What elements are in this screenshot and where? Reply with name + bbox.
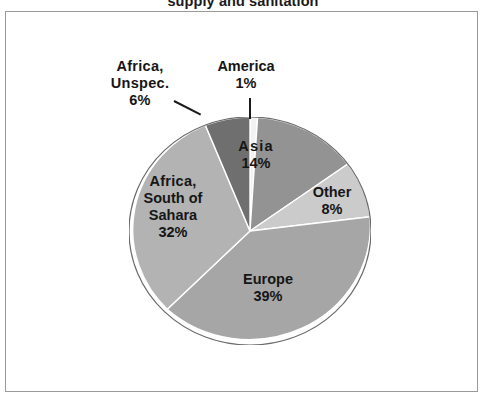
plot-area-frame: Africa, Unspec. 6% America 1% Asia 14% O… [5, 11, 478, 392]
pie-label-sahara-line2: South of [144, 190, 203, 206]
pie-label-other-name: Other [313, 184, 352, 200]
pie-label-sahara-line1: Africa, [149, 173, 196, 189]
pie-label-america-pct: 1% [198, 75, 294, 92]
pie-label-sahara-pct: 32% [118, 224, 228, 241]
pie-label-africa-unspec: Africa, Unspec. 6% [92, 58, 188, 109]
pie-label-asia-name: Asia [238, 138, 273, 154]
pie-label-other: Other 8% [294, 184, 370, 218]
pie-label-africa-south-of-sahara: Africa, South of Sahara 32% [118, 173, 228, 241]
pie-label-america-name: America [217, 58, 274, 74]
pie-label-africa-unspec-pct: 6% [92, 92, 188, 109]
pie-label-america: America 1% [198, 58, 294, 92]
pie-label-africa-unspec-line2: Unspec. [111, 75, 170, 91]
pie-label-asia: Asia 14% [220, 138, 292, 172]
chart-canvas: supply and sanitation [0, 0, 486, 401]
callout-line-america [249, 98, 251, 119]
pie-label-europe: Europe 39% [220, 271, 316, 305]
pie-label-europe-name: Europe [243, 271, 293, 287]
pie-label-sahara-line3: Sahara [149, 207, 197, 223]
pie-label-europe-pct: 39% [220, 288, 316, 305]
pie-label-africa-unspec-line1: Africa, [116, 58, 163, 74]
pie-label-asia-pct: 14% [220, 155, 292, 172]
chart-title: supply and sanitation [0, 0, 486, 11]
pie-label-other-pct: 8% [294, 201, 370, 218]
